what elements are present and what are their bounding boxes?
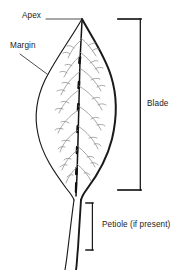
leaf-midrib (76, 21, 82, 196)
label-margin: Margin (10, 42, 36, 50)
leaf-petiole (65, 200, 81, 270)
label-petiole: Petiole (if present) (102, 221, 170, 229)
vein-tertiary (94, 144, 101, 146)
blade-bracket (118, 19, 141, 190)
label-blade: Blade (147, 100, 168, 108)
vein-tertiary (67, 46, 74, 48)
midrib-node (79, 57, 80, 63)
vein-tertiary (55, 128, 63, 130)
vein-secondary (79, 86, 102, 110)
vein-tertiary (57, 90, 65, 91)
leader-line-icon (20, 54, 47, 74)
vein-tertiary (63, 52, 70, 54)
margin-leader-line (20, 54, 47, 74)
vein-tertiary (89, 137, 97, 138)
vein-secondary (78, 106, 101, 130)
vein-tertiary (91, 163, 98, 165)
petiole-edge-left (65, 200, 74, 270)
petiole-bracket (86, 203, 93, 250)
label-apex: Apex (22, 12, 41, 20)
vein-secondary (68, 40, 81, 58)
vein-tertiary (90, 61, 98, 63)
vein-secondary (58, 110, 78, 133)
leaf-veins-right (77, 38, 106, 181)
vein-secondary (77, 164, 91, 181)
leaf-diagram: Apex Margin Blade Petiole (if present) (0, 0, 181, 270)
vein-tertiary (55, 108, 63, 110)
vein-tertiary (87, 156, 94, 158)
petiole-edge-right (76, 200, 81, 270)
